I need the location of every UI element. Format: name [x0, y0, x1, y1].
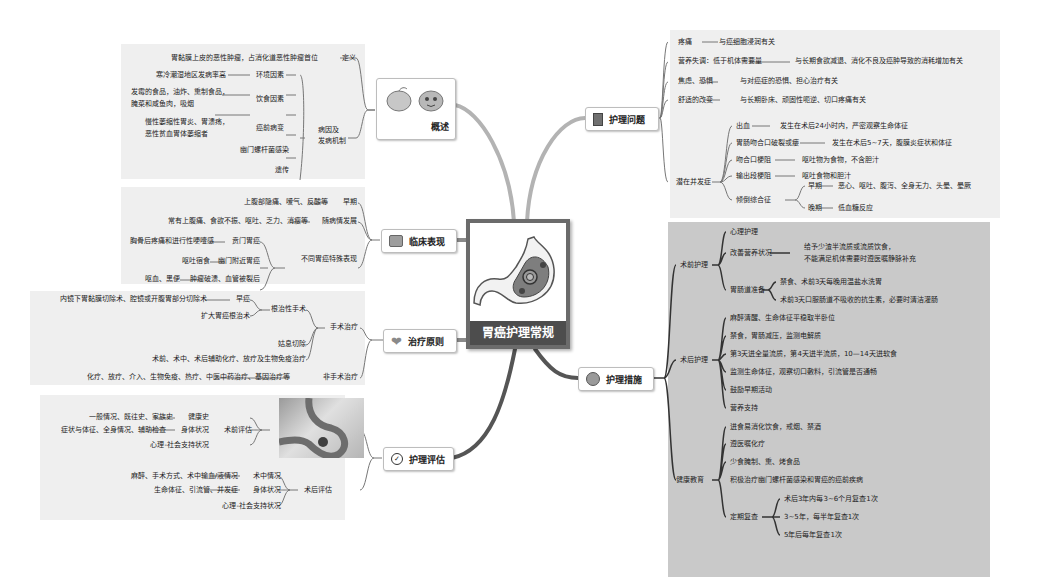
etiology-precancer-label: 癌前病变 — [256, 124, 284, 133]
etiology-env-detail: 寒冷潮湿地区发病率高 — [156, 71, 226, 80]
check-circle-icon: ✓ — [391, 453, 403, 465]
clinical-early-label: 早期 — [343, 198, 357, 207]
comp-bleeding-label: 出血 — [736, 122, 750, 131]
postop-item-5: 鼓励早期活动 — [730, 386, 772, 395]
assessment-history-label: 健康史 — [188, 413, 209, 422]
dumping-early-label: 早期 — [808, 182, 822, 191]
dumping-late-detail: 低血糖反应 — [838, 204, 873, 213]
postop-item-6: 营养支持 — [730, 404, 758, 413]
stomach-illustration-icon — [470, 225, 566, 323]
comp-efferent-label: 输出段梗阻 — [736, 172, 771, 181]
assessment-pre-body-label: 身体状况 — [181, 426, 209, 435]
education-followup-label: 定期复查 — [730, 513, 758, 522]
clinical-rupture-detail: 呕血、黑便 — [145, 275, 180, 284]
topic-treatment[interactable]: ❤ 治疗原则 — [383, 329, 457, 353]
measures-preop-nutrition-label: 改善营养状况 — [730, 249, 772, 258]
comp-leak-label: 胃肠吻合口破裂或瘘 — [736, 139, 799, 148]
assessment-pre-body-detail: 症状与体征、全身情况、辅助检查 — [61, 426, 166, 435]
measures-preop-label: 术前护理 — [680, 261, 708, 270]
dumping-late-label: 晚期 — [808, 204, 822, 213]
clinical-pylorus-label: 幽门附近胃癌 — [218, 257, 260, 266]
clinical-progress-label: 随病情发展 — [322, 217, 357, 226]
topic-problems-label: 护理问题 — [609, 113, 645, 126]
stomach-photo — [279, 398, 364, 458]
complications-label: 潜在并发症 — [676, 178, 711, 187]
education-item-1: 进食易消化饮食，戒烟、禁酒 — [730, 423, 821, 432]
treatment-early-detail: 内镜下胃黏膜切除术、腔镜或开腹胃部分切除术 — [60, 295, 207, 304]
clinical-early-detail: 上腹部隐痛、嗳气、反酸等 — [244, 198, 328, 207]
etiology-diet-detail-2: 腌菜和咸鱼肉，吸烟 — [131, 100, 194, 109]
measures-preop-bowel-2: 术前3天口服肠道不吸收的抗生素，必要时清洁灌肠 — [780, 296, 938, 305]
comp-leak-detail: 发生在术后5~7天，腹膜炎症状和体征 — [832, 139, 952, 148]
etiology-diet-label: 饮食因素 — [256, 95, 284, 104]
treatment-palliative: 姑息切除 — [278, 340, 306, 349]
treatment-surgical-label: 手术治疗 — [330, 323, 358, 332]
overview-definition-text: 胃黏膜上皮的恶性肿瘤，占消化道恶性肿瘤首位 — [171, 54, 318, 63]
topic-treatment-label: 治疗原则 — [408, 335, 444, 348]
comp-anastomosis-label: 吻合口梗阻 — [736, 156, 771, 165]
problem-comfort-label: 舒适的改变 — [678, 96, 713, 105]
etiology-genetic-label: 遗传 — [275, 166, 289, 175]
etiology-diet-detail-1: 发霉的食品，油炸、熏制食品， — [131, 88, 229, 97]
central-title: 胃癌护理常规 — [470, 321, 566, 345]
document-icon — [593, 113, 603, 126]
followup-item-1: 术后3年内每3~6个月复查1次 — [784, 495, 878, 504]
etiology-precancer-detail-2: 恶性贫血胃体萎缩者 — [145, 130, 208, 139]
assessment-post-body-label: 身体状况 — [253, 486, 281, 495]
postop-item-3: 第3天进全量流质，第4天进半流质，10—14天进软食 — [730, 350, 897, 359]
etiology-hp-label: 幽门螺杆菌感染 — [240, 146, 289, 155]
etiology-precancer-detail-1: 慢性萎缩性胃炎、胃溃疡， — [145, 118, 229, 127]
problem-nutrition-detail: 与长期食欲减退、消化不良及癌肿导致的消耗增加有关 — [795, 57, 963, 66]
postop-item-1: 麻醉清醒、生命体征平稳取半卧位 — [730, 314, 835, 323]
postop-item-2: 禁食，胃肠减压，监测电解质 — [730, 332, 821, 341]
problem-nutrition-label: 营养失调：低于机体需要量 — [678, 57, 762, 66]
comp-bleeding-detail: 发生在术后24小时内，严密观察生命体征 — [780, 122, 908, 131]
overview-definition-label: 定义 — [342, 54, 356, 63]
problem-anxiety-label: 焦虑、恐惧 — [678, 77, 713, 86]
comp-dumping-label: 倾倒综合征 — [736, 196, 771, 205]
clinical-progress-detail: 常有上腹痛、食欲不振、呕吐、乏力、消瘦等 — [168, 217, 308, 226]
problem-comfort-detail: 与长期卧床、顽固性呃逆、切口疼痛有关 — [740, 96, 866, 105]
comp-anastomosis-detail: 呕吐物为食物，不含胆汁 — [802, 156, 879, 165]
nurse-avatar-icon — [586, 372, 600, 386]
clinical-rupture-label: 肿瘤破溃、血管被裂后 — [190, 275, 260, 284]
treatment-early-label: 早癌 — [236, 295, 250, 304]
problem-anxiety-detail: 与对癌症的恐惧、担心治疗有关 — [740, 77, 838, 86]
topic-clinical[interactable]: 临床表现 — [381, 229, 457, 253]
measures-education-label: 健康教育 — [676, 476, 704, 485]
assessment-intraop-label: 术中情况 — [253, 472, 281, 481]
overview-etiology-label-2: 发病机制 — [318, 137, 346, 146]
measures-preop-nutrition-2: 不能满足机体需要时遵医嘱静脉补充 — [804, 255, 916, 264]
education-item-4: 积极治疗幽门螺杆菌感染和胃癌的癌前疾病 — [730, 476, 863, 485]
education-item-2: 遵医嘱化疗 — [730, 440, 765, 449]
stomach-cartoon-icon — [383, 85, 449, 115]
topic-assessment[interactable]: ✓ 护理评估 — [383, 447, 454, 471]
topic-overview[interactable]: 概述 — [376, 78, 456, 140]
topic-clinical-label: 临床表现 — [409, 235, 445, 248]
followup-item-3: 5年后每年复查1次 — [784, 531, 842, 540]
assessment-post-body-detail: 生命体征、引流管、并发症 — [154, 486, 238, 495]
measures-preop-bowel-label: 胃肠道准备 — [730, 286, 765, 295]
central-topic[interactable]: 胃癌护理常规 — [466, 219, 570, 349]
topic-measures-label: 护理措施 — [606, 373, 642, 386]
treatment-nonsurgical-detail: 化疗、放疗、介入、生物免疫、热疗、中医中药治疗、基因治疗等 — [87, 373, 290, 382]
assessment-history-detail: 一般情况、既往史、家族史 — [89, 413, 173, 422]
clinical-cardia-label: 贲门胃癌 — [232, 237, 260, 246]
clinical-pylorus-detail: 呕吐宿食 — [182, 257, 210, 266]
comp-efferent-detail: 呕吐食物和胆汁 — [802, 172, 851, 181]
overview-etiology-label-1: 病因及 — [318, 126, 339, 135]
computer-icon — [389, 235, 403, 247]
problem-pain-label: 疼痛 — [678, 38, 692, 47]
etiology-env-label: 环境因素 — [256, 71, 284, 80]
topic-problems[interactable]: 护理问题 — [585, 107, 659, 131]
problem-pain-detail: 与癌细胞浸润有关 — [719, 38, 775, 47]
assessment-post-psych: 心理-社会支持状况 — [222, 502, 281, 511]
measures-postop-label: 术后护理 — [680, 356, 708, 365]
postop-item-4: 监测生命体征，观察切口敷料，引流管是否通畅 — [730, 368, 877, 377]
education-item-3: 少食腌制、熏、烤食品 — [730, 458, 800, 467]
clinical-cardia-detail: 胸骨后疼痛和进行性哽噎感 — [130, 237, 214, 246]
topic-overview-label: 概述 — [431, 120, 449, 133]
topic-measures[interactable]: 护理措施 — [578, 367, 654, 391]
treatment-radical-label: 根治性手术 — [271, 305, 306, 314]
treatment-adjuvant: 术前、术中、术后辅助化疗、放疗及生物免疫治疗 — [152, 355, 306, 364]
